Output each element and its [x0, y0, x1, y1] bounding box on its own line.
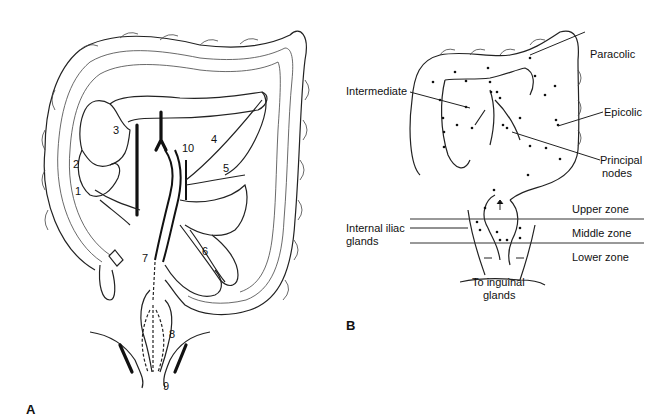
- diagram-canvas: [0, 0, 671, 419]
- figure-b-leader-lines: [410, 32, 603, 228]
- label-internal-iliac-line1: Internal iliac: [346, 222, 405, 234]
- label-lower-zone: Lower zone: [572, 251, 629, 263]
- label-paracolic: Paracolic: [590, 48, 635, 60]
- label-internal-iliac-line2: glands: [346, 235, 378, 247]
- label-principal-nodes-line1: Principal: [600, 154, 642, 166]
- label-6: 6: [202, 245, 208, 257]
- label-principal-nodes-line2: nodes: [602, 167, 632, 179]
- label-10: 10: [182, 142, 194, 154]
- label-middle-zone: Middle zone: [572, 227, 631, 239]
- label-3: 3: [113, 124, 119, 136]
- label-upper-zone: Upper zone: [572, 203, 629, 215]
- figure-a-vessels: [78, 92, 267, 388]
- label-8: 8: [169, 328, 175, 340]
- label-4: 4: [211, 133, 217, 145]
- figure-a-colon-outline: [42, 31, 309, 372]
- label-to-inguinal-line2: glands: [483, 289, 515, 301]
- label-2: 2: [73, 158, 79, 170]
- figure-b-nodes: [432, 57, 562, 242]
- figure-b-colon-outline: [410, 31, 581, 285]
- label-intermediate: Intermediate: [346, 85, 407, 97]
- label-9: 9: [163, 380, 169, 392]
- label-5: 5: [223, 162, 229, 174]
- label-7: 7: [142, 252, 148, 264]
- label-1: 1: [75, 185, 81, 197]
- label-to-inguinal-line1: To inguinal: [472, 276, 525, 288]
- panel-label-b: B: [346, 318, 355, 333]
- label-epicolic: Epicolic: [604, 106, 642, 118]
- panel-label-a: A: [26, 402, 35, 417]
